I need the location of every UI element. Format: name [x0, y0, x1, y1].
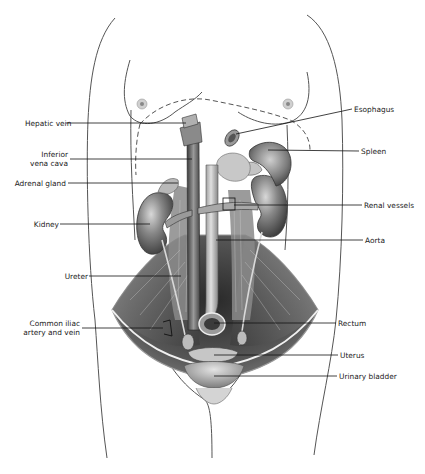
label-rectum: Rectum — [338, 319, 366, 328]
stomach-region — [216, 153, 250, 181]
leader-esophagus — [236, 109, 352, 134]
rectum — [199, 313, 225, 335]
label-common-iliac: Common iliac artery and vein — [20, 319, 80, 337]
label-aorta: Aorta — [365, 236, 385, 245]
label-esophagus: Esophagus — [354, 105, 394, 114]
label-renal-vessels: Renal vessels — [364, 201, 414, 210]
urinary-bladder — [184, 362, 244, 389]
label-uterus: Uterus — [340, 351, 364, 360]
label-urinary-bladder: Urinary bladder — [339, 372, 397, 381]
aorta — [204, 165, 218, 322]
label-adrenal-gland: Adrenal gland — [10, 179, 66, 188]
label-inferior-vena-cava: Inferior vena cava — [30, 150, 68, 168]
inferior-vena-cava — [187, 140, 200, 330]
label-inferior-vena-cava-line1: Inferior — [30, 150, 68, 159]
label-kidney: Kidney — [30, 220, 59, 229]
label-common-iliac-line2: artery and vein — [20, 328, 80, 337]
label-spleen: Spleen — [361, 147, 386, 156]
label-inferior-vena-cava-line2: vena cava — [30, 159, 68, 168]
esophagus — [222, 127, 242, 149]
label-common-iliac-line1: Common iliac — [20, 319, 80, 328]
label-ureter: Ureter — [58, 272, 88, 281]
anatomy-illustration — [0, 0, 425, 474]
hepatic-vein — [180, 114, 202, 146]
label-hepatic-vein: Hepatic vein — [25, 119, 66, 128]
